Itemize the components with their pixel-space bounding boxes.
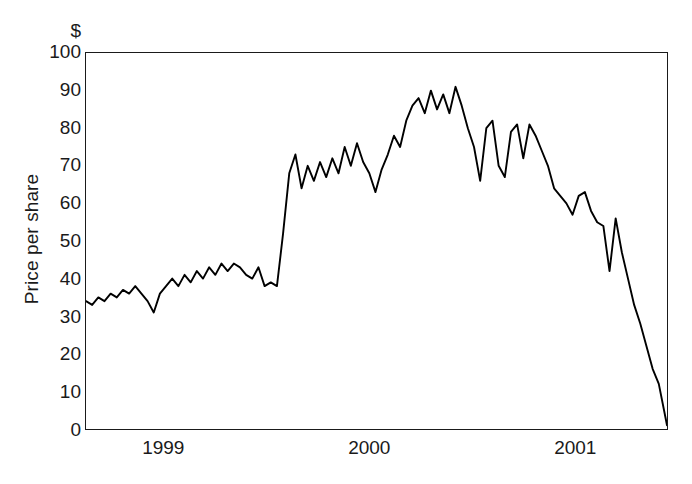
y-tick-label: 100 <box>36 42 81 61</box>
y-tick-label: 90 <box>36 80 81 99</box>
y-axis-tick-labels: 1009080706050403020100 <box>36 0 81 484</box>
y-tick-label: 30 <box>36 307 81 326</box>
y-tick-label: 60 <box>36 193 81 212</box>
y-tick-label: 20 <box>36 344 81 363</box>
x-axis-tick-labels: 199920002001 <box>0 437 692 467</box>
x-tick-label: 2000 <box>314 437 424 459</box>
y-tick-label: 70 <box>36 155 81 174</box>
y-tick-label: 10 <box>36 382 81 401</box>
series-canvas <box>86 53 667 429</box>
y-tick-label: 40 <box>36 269 81 288</box>
stock-price-chart-figure: Price per share $ 1009080706050403020100… <box>0 0 692 484</box>
x-tick-label: 1999 <box>108 437 218 459</box>
y-tick-label: 50 <box>36 231 81 250</box>
price-per-share-line <box>86 87 667 425</box>
plot-area <box>85 52 668 430</box>
x-tick-label: 2001 <box>520 437 630 459</box>
y-tick-label: 80 <box>36 118 81 137</box>
